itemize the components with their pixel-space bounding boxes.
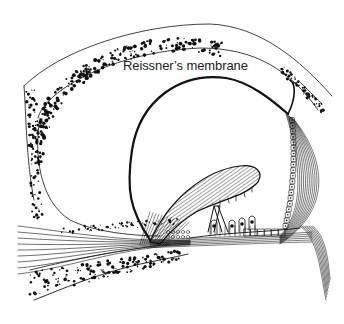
basilar-membrane	[150, 232, 312, 248]
reissners-membrane-line	[129, 77, 288, 240]
label-reissners-membrane: Reissner’s membrane	[123, 58, 248, 73]
cochlea-diagram	[0, 0, 344, 324]
